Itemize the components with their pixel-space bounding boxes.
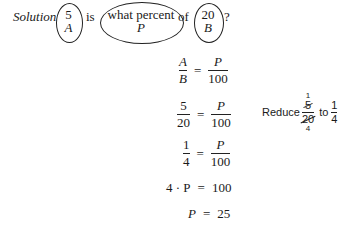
cancel-denominator: 4 <box>306 125 310 133</box>
result-fraction: 14 <box>331 100 337 125</box>
denominator: 4 <box>183 155 190 169</box>
step-1: AB = P100 <box>179 55 228 86</box>
solution-label: Solution <box>13 10 56 24</box>
to-label: to <box>319 106 328 118</box>
lhs-4-times-p: 4 · P <box>166 180 191 196</box>
answer-25: 25 <box>217 206 230 222</box>
variable-a: A <box>56 21 81 34</box>
numerator: 1 <box>183 138 190 152</box>
numerator: P <box>214 55 222 69</box>
reduce-note: Reduce 1 520 4 to 14 <box>262 92 337 132</box>
lhs-p: P <box>188 206 196 222</box>
variable-p: P <box>100 21 182 34</box>
denominator: 4 <box>331 114 337 125</box>
numerator: 5 <box>180 99 187 113</box>
numerator: P <box>217 138 225 152</box>
equals-sign: = <box>197 146 204 162</box>
term-a: 5 A <box>56 8 81 34</box>
denominator: 20 <box>177 116 190 130</box>
fraction-p-over-100: P100 <box>208 55 228 86</box>
original-fraction: 520 <box>302 100 314 125</box>
word-is: is <box>86 10 95 24</box>
rhs-100: 100 <box>212 180 232 196</box>
fraction-p-over-100: P100 <box>211 138 231 169</box>
step-5: P = 25 <box>188 206 230 222</box>
fraction-1-over-4: 14 <box>183 138 190 169</box>
step-2: 520 = P100 <box>177 99 231 130</box>
equals-sign: = <box>198 180 205 196</box>
variable-b: B <box>194 21 222 34</box>
fraction-p-over-100: P100 <box>211 99 231 130</box>
equals-sign: = <box>194 63 201 79</box>
term-b: 20 B <box>194 8 222 34</box>
term-p: what percent P <box>100 8 182 34</box>
numerator: P <box>217 99 225 113</box>
equals-sign: = <box>203 206 210 222</box>
cancelled-fraction: 1 520 4 <box>302 92 314 133</box>
fraction-a-over-b: AB <box>179 55 187 86</box>
step-4: 4 · P = 100 <box>166 180 231 196</box>
numerator: 1 <box>331 100 337 111</box>
question-mark: ? <box>224 10 230 24</box>
reduce-label: Reduce <box>262 106 300 118</box>
step-3: 14 = P100 <box>183 138 230 169</box>
denominator: 100 <box>208 72 228 86</box>
denominator: 100 <box>211 155 231 169</box>
fraction-5-over-20: 520 <box>177 99 190 130</box>
numerator: A <box>179 55 187 69</box>
word-of: of <box>178 10 189 24</box>
struck-numerator: 5 <box>305 100 311 111</box>
denominator: 100 <box>211 116 231 130</box>
denominator: B <box>179 72 187 86</box>
struck-denominator: 20 <box>302 114 314 125</box>
equals-sign: = <box>197 107 204 123</box>
